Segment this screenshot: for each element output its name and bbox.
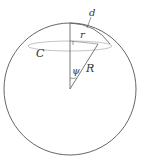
label-psi: ψ — [72, 65, 80, 76]
label-r: r — [80, 29, 86, 40]
psi-angle-arc — [70, 78, 76, 79]
label-d: d — [89, 7, 95, 18]
label-R: R — [85, 62, 94, 75]
label-c: C — [36, 47, 45, 60]
sphere-diagram: d r C ψ R — [0, 0, 142, 163]
